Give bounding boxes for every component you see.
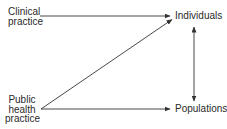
node-individuals: Individuals bbox=[175, 11, 222, 21]
public-health-practice-line-3: practice bbox=[5, 114, 39, 124]
individuals-label: Individuals bbox=[175, 11, 222, 21]
populations-label: Populations bbox=[175, 104, 227, 114]
edge-public-health-to-individuals bbox=[41, 20, 172, 110]
node-clinical-practice: Clinical practice bbox=[8, 7, 43, 26]
node-populations: Populations bbox=[175, 104, 227, 114]
node-public-health-practice: Public health practice bbox=[5, 95, 39, 124]
clinical-practice-line-2: practice bbox=[8, 17, 43, 27]
